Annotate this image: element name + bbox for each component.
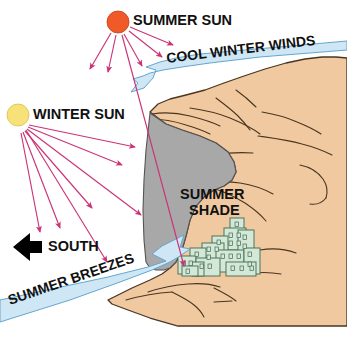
south-label: SOUTH [48,238,99,254]
sun-icon-summer [107,11,129,33]
diagram-svg: SUMMER SUN WINTER SUN SOUTH COOL WINTER … [0,0,347,349]
winter-sun-label: WINTER SUN [33,106,125,122]
summer-sun-label: SUMMER SUN [133,12,232,28]
sun-icon-winter [7,104,29,126]
summer-shade-label-line2: SHADE [189,202,240,218]
diagram-canvas: SUMMER SUN WINTER SUN SOUTH COOL WINTER … [0,0,347,349]
summer-shade-label-line1: SUMMER [180,186,245,202]
